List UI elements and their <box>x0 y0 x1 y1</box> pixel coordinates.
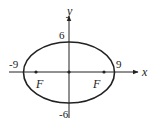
y-axis-label: y <box>66 4 73 18</box>
tick-x-pos: 9 <box>116 58 122 70</box>
focus-right-label: F <box>92 77 101 91</box>
origin-point <box>67 70 70 73</box>
tick-y-neg: -6 <box>59 108 69 120</box>
focus-left-label: F <box>35 77 44 91</box>
tick-x-neg: -9 <box>9 58 19 70</box>
focus-right-point <box>102 70 105 73</box>
focus-left-point <box>34 70 37 73</box>
tick-y-pos: 6 <box>59 29 65 41</box>
ellipse-diagram: y x 6 -6 -9 9 F F <box>0 0 159 125</box>
x-axis-label: x <box>141 65 148 79</box>
